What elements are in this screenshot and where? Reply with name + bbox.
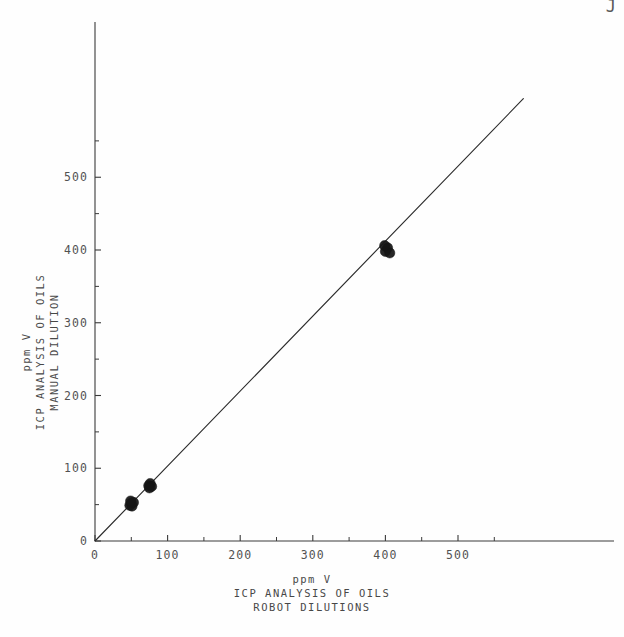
identity-line xyxy=(95,99,523,541)
scatter-plot xyxy=(0,0,624,637)
figure-canvas: 0100200300400500 0100200300400500 ppm VI… xyxy=(0,0,624,637)
y-tick-label: 100 xyxy=(40,461,88,475)
y-axis-title: ppm VICP ANALYSIS OF OILSMANUAL DILUTION xyxy=(19,274,61,430)
x-tick-label: 100 xyxy=(156,548,180,562)
axis-title-line: MANUAL DILUTION xyxy=(47,274,61,430)
x-tick-label: 400 xyxy=(373,548,397,562)
x-tick-label: 0 xyxy=(91,548,99,562)
y-tick-label: 500 xyxy=(40,170,88,184)
corner-annotation: J xyxy=(606,0,616,16)
x-axis-ticks xyxy=(95,535,494,541)
axis-title-line: ppm V xyxy=(234,572,390,586)
y-tick-label: 400 xyxy=(40,243,88,257)
y-axis-ticks xyxy=(95,141,101,541)
axis-title-line: ICP ANALYSIS OF OILS xyxy=(33,274,47,430)
y-tick-label: 0 xyxy=(40,534,88,548)
x-tick-label: 500 xyxy=(446,548,470,562)
x-tick-label: 200 xyxy=(228,548,252,562)
data-points xyxy=(125,241,395,512)
x-tick-label: 300 xyxy=(301,548,325,562)
x-axis-title: ppm VICP ANALYSIS OF OILSROBOT DILUTIONS xyxy=(234,572,390,614)
axis-title-line: ICP ANALYSIS OF OILS xyxy=(234,586,390,600)
axis-title-line: ROBOT DILUTIONS xyxy=(234,600,390,614)
axis-title-line: ppm V xyxy=(19,274,33,430)
